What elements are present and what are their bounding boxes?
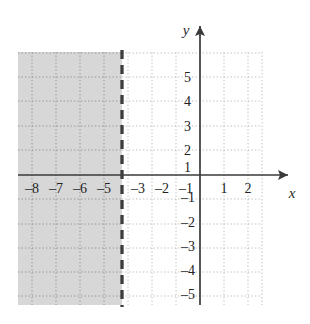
x-tick-label-pos2: 2 [245, 181, 252, 196]
graph-figure: x y –8 –7 –6 –5 –3 –2 –1 1 2 5 4 3 2 1 –… [0, 0, 310, 324]
x-tick-label-neg7: –7 [48, 181, 63, 196]
y-tick-label-pos3: 3 [184, 119, 191, 134]
x-tick-label-neg2: –2 [154, 181, 169, 196]
x-tick-label-neg5: –5 [96, 181, 111, 196]
x-tick-label-neg3: –3 [130, 181, 145, 196]
y-tick-label-pos1: 1 [184, 160, 191, 175]
y-tick-label-pos2: 2 [184, 143, 191, 158]
y-axis-label: y [181, 22, 190, 38]
x-tick-label-neg6: –6 [72, 181, 87, 196]
y-tick-label-neg1: –1 [180, 190, 195, 205]
y-tick-label-pos5: 5 [184, 70, 191, 85]
y-tick-label-neg3: –3 [180, 239, 195, 254]
x-axis-label: x [288, 185, 296, 201]
coordinate-plane-svg: x y –8 –7 –6 –5 –3 –2 –1 1 2 5 4 3 2 1 –… [0, 0, 310, 324]
y-tick-label-neg2: –2 [180, 215, 195, 230]
y-tick-label-neg5: –5 [180, 287, 195, 302]
x-tick-label-neg8: –8 [24, 181, 39, 196]
gridlines-vertical [128, 52, 262, 305]
y-tick-label-neg4: –4 [180, 263, 195, 278]
y-tick-label-pos4: 4 [184, 94, 191, 109]
x-tick-label-pos1: 1 [221, 181, 228, 196]
shaded-solution-region [18, 52, 122, 305]
